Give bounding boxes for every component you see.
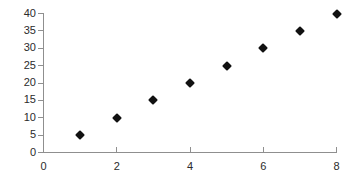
y-axis-tick-label: 35 xyxy=(2,25,36,36)
x-axis-tick-label: 8 xyxy=(325,160,349,172)
y-axis-tick-label-wrap: 0 xyxy=(0,147,36,158)
y-axis-tick xyxy=(38,65,43,66)
x-axis-tick xyxy=(336,147,337,152)
x-axis-tick-label-wrap: 8 xyxy=(325,160,349,172)
x-axis-tick-label: 4 xyxy=(178,160,202,172)
y-axis-tick-label-wrap: 25 xyxy=(0,60,36,71)
x-axis-tick xyxy=(116,147,117,152)
x-axis-tick-label-wrap: 2 xyxy=(105,160,129,172)
y-axis-tick-label: 25 xyxy=(2,60,36,71)
y-axis-tick-label-wrap: 5 xyxy=(0,129,36,140)
x-axis-tick-label-wrap: 0 xyxy=(32,160,56,172)
y-axis-tick xyxy=(38,152,43,153)
y-axis-tick xyxy=(38,30,43,31)
x-axis-tick-label: 6 xyxy=(251,160,275,172)
y-axis-tick-label-wrap: 20 xyxy=(0,77,36,88)
x-axis-line xyxy=(43,152,337,153)
y-axis-tick-label: 5 xyxy=(2,129,36,140)
x-axis-tick xyxy=(43,147,44,152)
y-axis-tick-label-wrap: 35 xyxy=(0,25,36,36)
data-point-marker xyxy=(258,43,268,53)
y-axis-tick-label: 30 xyxy=(2,42,36,53)
data-point-marker xyxy=(185,78,195,88)
data-point-marker xyxy=(75,130,85,140)
y-axis-tick-label: 0 xyxy=(2,147,36,158)
data-point-marker xyxy=(295,26,305,36)
y-axis-tick-label-wrap: 15 xyxy=(0,94,36,105)
y-axis-tick-label: 15 xyxy=(2,94,36,105)
y-axis-tick xyxy=(38,83,43,84)
data-point-marker xyxy=(222,61,232,71)
y-axis-tick-label-wrap: 40 xyxy=(0,8,36,19)
scatter-plot-screenshot: 0510152025303540 02468 xyxy=(0,0,359,180)
y-axis-tick xyxy=(38,135,43,136)
plot-area: 0510152025303540 02468 xyxy=(0,0,359,180)
data-point-marker xyxy=(112,113,122,123)
x-axis-tick xyxy=(190,147,191,152)
y-axis-line xyxy=(43,13,44,153)
y-axis-tick-label: 20 xyxy=(2,77,36,88)
data-point-marker xyxy=(332,9,342,19)
x-axis-tick xyxy=(263,147,264,152)
y-axis-tick xyxy=(38,48,43,49)
y-axis-tick-label-wrap: 30 xyxy=(0,42,36,53)
y-axis-tick-label: 40 xyxy=(2,8,36,19)
x-axis-tick-label-wrap: 6 xyxy=(251,160,275,172)
data-point-marker xyxy=(148,95,158,105)
x-axis-tick-label-wrap: 4 xyxy=(178,160,202,172)
y-axis-tick xyxy=(38,117,43,118)
x-axis-tick-label: 2 xyxy=(105,160,129,172)
y-axis-tick-label-wrap: 10 xyxy=(0,112,36,123)
x-axis-tick-label: 0 xyxy=(32,160,56,172)
y-axis-tick xyxy=(38,13,43,14)
y-axis-tick xyxy=(38,100,43,101)
y-axis-tick-label: 10 xyxy=(2,112,36,123)
